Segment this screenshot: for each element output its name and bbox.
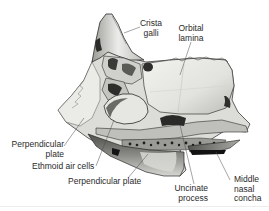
label-uncinate-process: Uncinate process — [168, 184, 208, 203]
ethmoid-bone-figure: Crista galli Orbital lamina Perpendicula… — [0, 0, 269, 211]
label-orbital-lamina: Orbital lamina — [172, 24, 210, 43]
label-ethmoid-air-cells: Ethmoid air cells — [32, 162, 94, 172]
bottom-divider — [0, 206, 269, 207]
leader-middle-nasal-concha — [216, 152, 230, 180]
label-perpendicular-plate-bottom: Perpendicular plate — [68, 177, 141, 187]
label-middle-nasal-concha: Middle nasal concha — [234, 175, 261, 204]
label-perpendicular-plate-left: Perpendicular plate — [2, 140, 64, 159]
orbital-lamina-shape — [142, 57, 234, 114]
label-crista-galli: Crista galli — [135, 19, 167, 38]
foramen-shape — [143, 63, 153, 72]
